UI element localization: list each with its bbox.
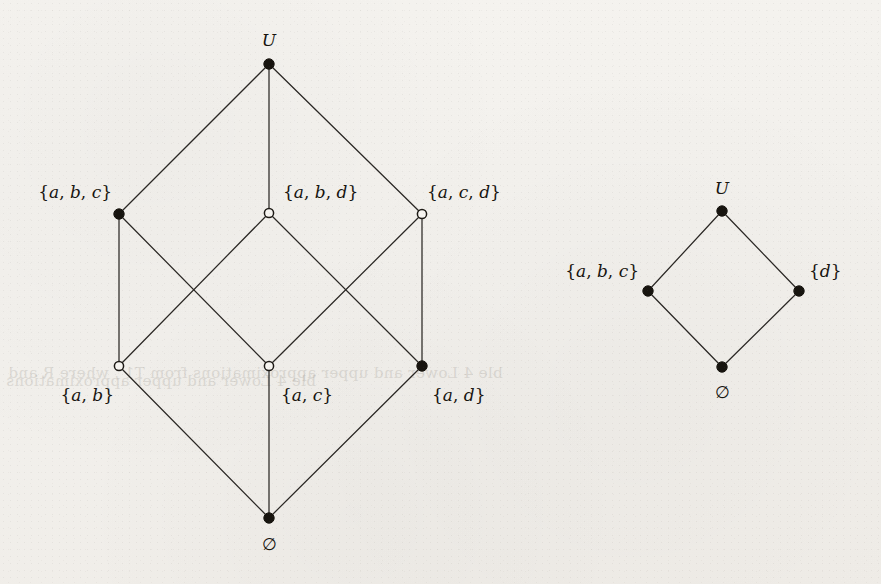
lattice-node-U (264, 59, 274, 69)
lattice-node-a-b (114, 361, 123, 370)
lattice-node-a-b-c (114, 209, 124, 219)
node-label: {a, b, c} (565, 261, 639, 281)
node-label: {a, c, d} (427, 182, 501, 202)
lattice-node-empty-set (717, 362, 727, 372)
node-label: {a, d} (432, 385, 486, 405)
node-label: {a, c} (281, 385, 333, 405)
lattice-node-a-c (264, 361, 273, 370)
left-lattice-nodes (114, 59, 427, 523)
lattice-edge (648, 211, 722, 291)
lattice-node-d (794, 286, 804, 296)
lattice-node-a-c-d (417, 209, 426, 218)
lattice-edge (648, 291, 722, 367)
node-label: {a, b} (61, 385, 115, 405)
lattice-edge (119, 366, 269, 518)
node-label: U (715, 178, 730, 198)
lattice-node-empty-set (264, 513, 274, 523)
lattice-node-U (717, 206, 727, 216)
right-lattice-edges (648, 211, 799, 367)
lattice-edge (722, 291, 799, 367)
page-canvas: ble 4 Lower and upper approximations fro… (0, 0, 881, 584)
hasse-diagram-figure: U{a, b, c}{a, b, d}{a, c, d}{a, b}{a, c}… (0, 0, 881, 584)
right-lattice-nodes (643, 206, 804, 372)
node-label: {a, b, d} (283, 182, 358, 202)
left-lattice-edges (119, 64, 422, 518)
node-label: ∅ (262, 534, 277, 554)
node-label: ∅ (715, 382, 730, 402)
lattice-node-a-d (417, 361, 427, 371)
lattice-node-a-b-c (643, 286, 653, 296)
node-label: {d} (809, 261, 842, 281)
lattice-node-a-b-d (264, 208, 273, 217)
node-label: {a, b, c} (38, 182, 112, 202)
lattice-edge (722, 211, 799, 291)
node-label: U (262, 30, 277, 50)
lattice-edge (119, 64, 269, 214)
